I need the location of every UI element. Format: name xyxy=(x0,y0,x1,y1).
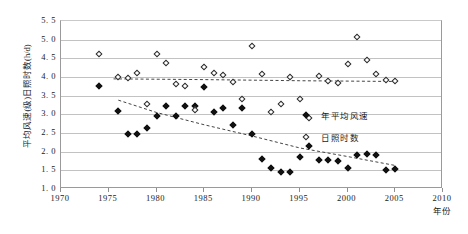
legend-label: 日照时数 xyxy=(321,131,359,143)
legend-item[interactable]: 日照时数 xyxy=(300,126,369,148)
y-axis-tick-label: 5. 5 xyxy=(12,15,56,25)
x-axis-tick-label: 1975 xyxy=(98,193,117,203)
x-axis-tick-mark xyxy=(442,188,443,192)
legend-label: 年平均风速 xyxy=(321,109,369,121)
x-axis-tick-mark xyxy=(108,188,109,192)
chart-legend: 年平均风速日照时数 xyxy=(300,104,369,148)
x-axis-tick-mark xyxy=(347,188,348,192)
open-diamond-icon xyxy=(300,131,312,143)
y-axis-tick-labels: 1. 01. 52. 02. 53. 03. 54. 04. 55. 05. 5 xyxy=(8,0,56,234)
y-axis-tick-label: 1. 5 xyxy=(12,164,56,174)
x-axis-tick-label: 1980 xyxy=(146,193,165,203)
y-axis-tick-label: 5. 0 xyxy=(12,34,56,44)
plot-area xyxy=(60,20,442,188)
x-axis-tick-label: 1990 xyxy=(242,193,261,203)
filled-diamond-icon xyxy=(300,109,312,121)
x-axis-tick-mark xyxy=(394,188,395,192)
x-axis-tick-mark xyxy=(60,188,61,192)
trendline xyxy=(114,79,396,82)
legend-item[interactable]: 年平均风速 xyxy=(300,104,369,126)
y-axis-tick-label: 2. 5 xyxy=(12,127,56,137)
y-axis-tick-label: 1. 0 xyxy=(12,183,56,193)
x-axis-tick-mark xyxy=(203,188,204,192)
x-axis-tick-label: 1970 xyxy=(51,193,70,203)
x-axis-tick-label: 1995 xyxy=(289,193,308,203)
y-axis-tick-label: 3. 0 xyxy=(12,108,56,118)
x-axis-tick-label: 1985 xyxy=(194,193,213,203)
y-axis-tick-label: 4. 0 xyxy=(12,71,56,81)
y-axis-tick-label: 3. 5 xyxy=(12,90,56,100)
x-axis-tick-mark xyxy=(251,188,252,192)
x-axis-title: 年份 xyxy=(433,204,451,216)
x-axis-tick-mark xyxy=(156,188,157,192)
x-axis-tick-label: 2005 xyxy=(385,193,404,203)
x-axis-tick-mark xyxy=(299,188,300,192)
x-axis-tick-label: 2000 xyxy=(337,193,356,203)
y-axis-tick-label: 4. 5 xyxy=(12,52,56,62)
y-axis-tick-label: 2. 0 xyxy=(12,146,56,156)
x-axis-tick-label: 2010 xyxy=(433,193,452,203)
chart-container: 平均风速(级)日照时数(h/d) 1. 01. 52. 02. 53. 03. … xyxy=(0,0,468,234)
